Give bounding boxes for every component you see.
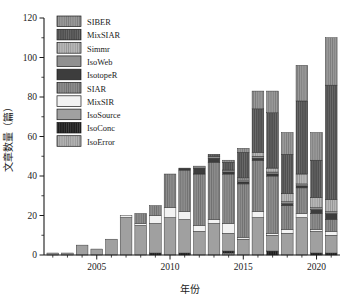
y-tick-label-60: 60: [28, 132, 38, 142]
legend-swatch-simmr: [57, 43, 81, 54]
bar-segment-mixsir-2014: [223, 223, 235, 233]
bar-segment-isosource-2012: [193, 231, 205, 255]
legend-swatch-isotoper: [57, 69, 81, 80]
bar-segment-mixsir-2019: [296, 214, 308, 218]
bar-2009: [150, 206, 162, 255]
legend-item-isoerror[interactable]: IsoError: [57, 136, 115, 147]
bar-segment-siber-2015: [237, 148, 249, 152]
legend-swatch-siber: [57, 16, 81, 27]
bar-2017: [267, 91, 279, 255]
bar-2005: [91, 249, 103, 255]
legend-item-mixsiar[interactable]: MixSIAR: [57, 29, 120, 40]
bar-segment-siber-2020: [311, 133, 323, 161]
bar-segment-simmr-2016: [252, 152, 264, 156]
legend-item-isotoper[interactable]: IsotopeR: [57, 69, 118, 80]
bar-2006: [106, 239, 118, 255]
bar-segment-siar-2008: [135, 214, 147, 224]
bar-segment-mixsir-2018: [281, 229, 293, 233]
legend-label-isosource: IsoSource: [87, 111, 121, 120]
bar-segment-mixsir-2013: [208, 219, 220, 223]
bar-segment-mixsir-2009: [150, 216, 162, 224]
bar-segment-siber-2017: [267, 91, 279, 113]
y-tick-label-0: 0: [32, 250, 37, 260]
bar-segment-siber-2016: [252, 91, 264, 109]
bar-segment-isosource-2010: [164, 217, 176, 255]
bar-segment-mixsir-2012: [193, 225, 205, 231]
bar-segment-isoconc-2017: [267, 251, 279, 255]
bar-segment-isoweb-2015: [237, 180, 249, 182]
chart-canvas: 020406080100120 2005201020152020 文章数量（篇）…: [0, 0, 344, 298]
bar-segment-isosource-2004: [76, 245, 88, 255]
bar-segment-simmr-2021: [325, 200, 337, 212]
bar-segment-siar-2009: [150, 206, 162, 216]
legend-label-simmr: Simmr: [87, 45, 110, 54]
bar-segment-isoweb-2012: [193, 166, 205, 168]
bar-segment-isosource-2015: [237, 239, 249, 255]
bar-segment-isotoper-2021: [325, 214, 337, 220]
bar-segment-siar-2011: [179, 170, 191, 211]
bar-segment-mixsir-2021: [325, 231, 337, 235]
y-axis-tick-labels: 020406080100120: [23, 13, 38, 260]
bar-segment-isosource-2005: [91, 249, 103, 255]
bar-segment-mixsiar-2014: [223, 162, 235, 170]
bar-segment-mixsiar-2021: [325, 85, 337, 200]
bar-segment-siar-2013: [208, 162, 220, 219]
bar-2020: [311, 133, 323, 255]
bar-2011: [179, 168, 191, 255]
bar-segment-isoweb-2019: [296, 184, 308, 186]
bar-segment-siber-2018: [281, 133, 293, 155]
bar-2021: [325, 38, 337, 255]
bar-2014: [223, 160, 235, 255]
bar-segment-isotoper-2014: [223, 172, 235, 174]
legend-label-mixsir: MixSIR: [87, 98, 114, 107]
legend-label-siar: SIAR: [87, 85, 106, 94]
bar-segment-isosource-2016: [252, 217, 264, 255]
bar-segment-mixsir-2008: [135, 223, 147, 225]
bar-segment-mixsiar-2015: [237, 152, 249, 178]
legend-swatch-isoerror: [57, 136, 81, 147]
bar-segment-isotoper-2016: [252, 158, 264, 160]
bar-segment-siber-2021: [325, 38, 337, 85]
legend-label-isoconc: IsoConc: [87, 124, 115, 133]
bar-segment-siar-2019: [296, 188, 308, 214]
bar-2018: [281, 133, 293, 255]
bar-2012: [193, 166, 205, 255]
legend-swatch-isosource: [57, 109, 81, 120]
bar-segment-mixsir-2011: [179, 212, 191, 220]
bar-segment-mixsir-2015: [237, 237, 249, 239]
bar-segment-isoweb-2017: [267, 172, 279, 174]
bar-segment-simmr-2019: [296, 174, 308, 184]
bar-segment-mixsiar-2019: [296, 101, 308, 174]
bar-segment-siber-2019: [296, 65, 308, 101]
legend-item-isosource[interactable]: IsoSource: [57, 109, 121, 120]
legend-swatch-isoconc: [57, 122, 81, 133]
bar-segment-isoweb-2020: [311, 208, 323, 210]
bar-2004: [76, 245, 88, 255]
bar-segment-isoweb-2013: [208, 156, 220, 158]
bar-segment-isotoper-2018: [281, 204, 293, 206]
bar-2013: [208, 154, 220, 255]
x-axis-tick-labels: 2005201020152020: [87, 262, 326, 272]
bar-segment-isosource-2009: [150, 223, 162, 253]
stacked-bar-chart: 020406080100120 2005201020152020 文章数量（篇）…: [0, 0, 344, 298]
legend-label-isoweb: IsoWeb: [87, 58, 112, 67]
bar-2010: [164, 174, 176, 255]
bar-2008: [135, 214, 147, 255]
bar-segment-siar-2012: [193, 174, 205, 225]
bar-segment-isosource-2018: [281, 233, 293, 255]
bar-segment-mixsir-2010: [164, 208, 176, 218]
bar-segment-simmr-2020: [311, 198, 323, 208]
bar-segment-isoweb-2016: [252, 156, 264, 158]
bar-segment-mixsiar-2013: [208, 154, 220, 156]
bar-segment-isotoper-2011: [179, 168, 191, 170]
legend-swatch-siar: [57, 83, 81, 94]
legend-item-isoconc[interactable]: IsoConc: [57, 122, 115, 133]
x-tick-label-2010: 2010: [161, 262, 180, 272]
bar-segment-siar-2020: [311, 214, 323, 230]
x-axis-title: 年份: [180, 283, 200, 295]
legend-label-isotoper: IsotopeR: [87, 71, 118, 80]
bar-segment-mixsiar-2016: [252, 109, 264, 152]
bar-segment-isotoper-2012: [193, 168, 205, 174]
bar-segment-isotoper-2019: [296, 186, 308, 188]
bar-segment-mixsir-2017: [267, 233, 279, 235]
